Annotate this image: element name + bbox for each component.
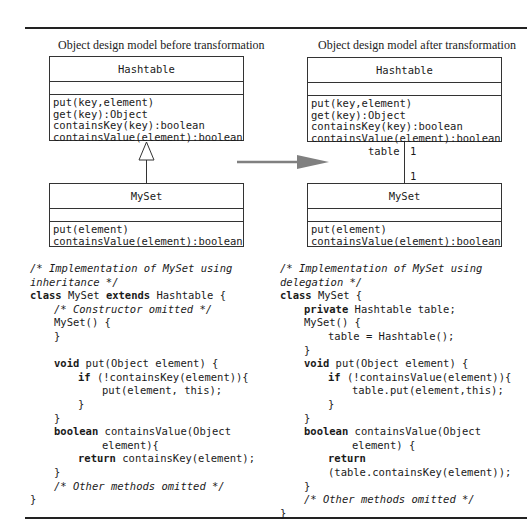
code-keyword: boolean	[304, 425, 348, 437]
code-line: inheritance */	[30, 276, 255, 290]
code-line: }	[30, 412, 255, 426]
code-text: (!containsValue(element)){	[341, 371, 512, 383]
code-keyword: return	[328, 452, 366, 464]
code-line: element){	[30, 439, 255, 453]
code-line: if (!containsKey(element)){	[30, 371, 255, 385]
code-keyword: void	[304, 357, 329, 369]
code-text: table = Hashtable();	[328, 330, 454, 342]
code-line: (table.containsKey(element));	[280, 466, 511, 480]
code-text: (table.containsKey(element));	[328, 466, 511, 478]
code-line: if (!containsValue(element)){	[280, 371, 511, 385]
code-inheritance: /* Implementation of MySet usinginherita…	[30, 262, 255, 507]
code-line: delegation */	[280, 276, 511, 290]
code-line: /* Implementation of MySet using	[30, 262, 255, 276]
code-text: MySet	[62, 289, 106, 301]
code-keyword: void	[54, 357, 79, 369]
code-keyword: boolean	[54, 425, 98, 437]
code-comment: /* Other methods omitted */	[54, 480, 225, 492]
code-text: MySet() {	[304, 316, 361, 328]
code-text: }	[304, 344, 310, 356]
code-text: }	[304, 412, 310, 424]
code-line: void put(Object element) {	[30, 357, 255, 371]
code-comment: /* Implementation of MySet using	[280, 262, 482, 274]
code-text: }	[30, 493, 36, 505]
code-line: table = Hashtable();	[280, 330, 511, 344]
code-comment: delegation */	[280, 276, 362, 288]
code-text: }	[328, 398, 334, 410]
code-keyword: return	[78, 452, 116, 464]
code-line: boolean containsValue(Object	[280, 425, 511, 439]
code-keyword: if	[78, 371, 91, 383]
code-keyword: class	[280, 289, 312, 301]
code-line: /* Other methods omitted */	[280, 493, 511, 507]
code-line: }	[30, 493, 255, 507]
code-line: }	[280, 480, 511, 494]
code-text: MySet() {	[54, 316, 111, 328]
code-text: (!containsKey(element)){	[91, 371, 249, 383]
code-keyword: class	[30, 289, 62, 301]
code-keyword: private	[304, 303, 348, 315]
code-text: put(Object element) {	[79, 357, 218, 369]
code-line: }	[280, 412, 511, 426]
code-text: Hashtable {	[150, 289, 226, 301]
code-text: }	[54, 412, 60, 424]
code-comment: /* Other methods omitted */	[304, 493, 475, 505]
code-text: put(Object element) {	[329, 357, 468, 369]
code-text: containsValue(Object	[348, 425, 481, 437]
code-line: element) {	[280, 439, 511, 453]
code-delegation: /* Implementation of MySet usingdelegati…	[280, 262, 511, 520]
code-text: containsValue(Object	[98, 425, 231, 437]
code-line: return containsKey(element);	[30, 452, 255, 466]
code-text: }	[304, 480, 310, 492]
code-line: table.put(element,this);	[280, 384, 511, 398]
code-line: put(element, this);	[30, 384, 255, 398]
code-keyword: extends	[106, 289, 150, 301]
code-text: }	[54, 466, 60, 478]
code-text: containsKey(element);	[116, 452, 255, 464]
code-text: }	[78, 398, 84, 410]
code-keyword: if	[328, 371, 341, 383]
code-line: }	[30, 330, 255, 344]
code-comment: /* Constructor omitted */	[54, 303, 212, 315]
code-text: }	[54, 330, 60, 342]
code-line: MySet() {	[280, 316, 511, 330]
code-text: }	[280, 507, 286, 519]
code-line: MySet() {	[30, 316, 255, 330]
code-line: private Hashtable table;	[280, 303, 511, 317]
code-text: MySet {	[312, 289, 363, 301]
code-line: class MySet {	[280, 289, 511, 303]
code-line: }	[280, 344, 511, 358]
code-text: Hashtable table;	[348, 303, 455, 315]
code-text: element){	[102, 439, 159, 451]
code-line: }	[280, 398, 511, 412]
code-line	[30, 344, 255, 358]
code-line: }	[280, 507, 511, 521]
code-line: boolean containsValue(Object	[30, 425, 255, 439]
transformation-arrow-icon	[237, 155, 329, 169]
code-line: /* Implementation of MySet using	[280, 262, 511, 276]
code-line: /* Constructor omitted */	[30, 303, 255, 317]
code-line: }	[30, 466, 255, 480]
code-comment: inheritance */	[30, 276, 119, 288]
code-line: void put(Object element) {	[280, 357, 511, 371]
code-line: /* Other methods omitted */	[30, 480, 255, 494]
code-line: class MySet extends Hashtable {	[30, 289, 255, 303]
code-text: put(element, this);	[102, 384, 222, 396]
code-comment: /* Implementation of MySet using	[30, 262, 232, 274]
code-text: table.put(element,this);	[352, 384, 504, 396]
generalization-arrow-icon	[139, 142, 154, 183]
code-line: }	[30, 398, 255, 412]
code-line: return	[280, 452, 511, 466]
code-text: element) {	[352, 439, 415, 451]
